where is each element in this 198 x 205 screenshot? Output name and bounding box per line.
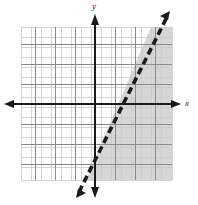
coordinate-plane-figure: y x bbox=[0, 0, 198, 205]
y-axis-top-arrowhead bbox=[91, 14, 99, 25]
x-axis-right-arrowhead bbox=[171, 100, 181, 108]
y-axis-bottom-arrowhead bbox=[91, 187, 99, 198]
x-axis-left-arrowhead bbox=[4, 100, 14, 108]
graph-canvas bbox=[0, 0, 198, 205]
x-axis-label: x bbox=[185, 99, 189, 108]
y-axis-label: y bbox=[92, 2, 96, 11]
